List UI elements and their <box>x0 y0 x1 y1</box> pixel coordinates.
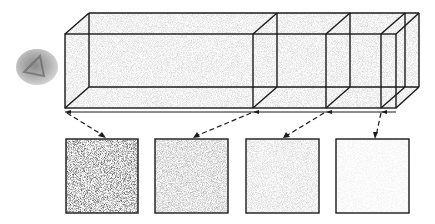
slice-diagram <box>0 0 435 224</box>
patch-2 <box>155 139 228 213</box>
pointer-2 <box>196 113 251 136</box>
arrowhead-icon <box>98 132 106 138</box>
patch-row <box>66 139 409 213</box>
slice-pointers <box>67 113 381 136</box>
arrowhead-icon <box>283 132 290 138</box>
patch-3 <box>246 139 319 213</box>
arrowhead-icon <box>381 110 387 114</box>
arrowhead-icon <box>326 110 332 114</box>
arrowhead-icon <box>373 132 378 139</box>
pointer-1 <box>67 113 104 136</box>
object-sphere <box>16 49 58 85</box>
patch-1 <box>66 139 138 213</box>
pointer-3 <box>286 113 324 136</box>
volume-fill <box>65 13 419 108</box>
depth-baseline <box>65 110 396 114</box>
patch-4 <box>336 139 409 213</box>
pointer-heads <box>98 132 378 139</box>
arrowhead-icon <box>253 110 259 114</box>
sphere-icon <box>16 49 58 85</box>
